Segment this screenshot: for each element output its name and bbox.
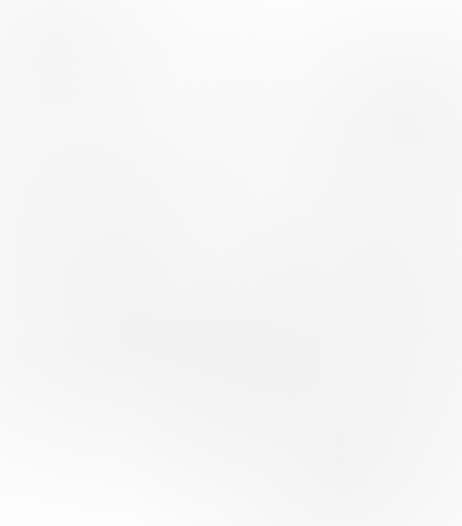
panel-label: B1 [60, 165, 76, 177]
y-tick-label: 0.0 [41, 386, 49, 392]
panel-auc-label: AUC=0.72 [275, 426, 337, 440]
y-tick-label: 1.0 [251, 287, 259, 293]
y-tick-label: 0.4 [35, 84, 44, 90]
legend-label: AUC = 0.65 [384, 378, 411, 384]
panel-auc-label: AUC=0.65 [271, 304, 337, 319]
y-tick-label: 0.2 [46, 483, 53, 489]
roc-plot-c2: 0.00.20.40.60.81.00.00.20.40.60.81.0C2AU… [232, 283, 428, 403]
x-tick-label: 0.6 [140, 393, 148, 399]
roc-panel-b2: 0.00.20.40.60.81.00.00.20.40.60.81.0B2AU… [232, 157, 428, 279]
y-tick-label: 0.2 [41, 366, 49, 372]
y-tick-label: 1.0 [46, 409, 53, 415]
y-tick-label: 0.0 [46, 501, 53, 507]
y-tick-label: 0.8 [46, 427, 53, 433]
panel-label: A2 [267, 24, 283, 38]
y-tick-label: 0.0 [35, 126, 44, 132]
x-tick-label: 0.2 [289, 393, 297, 399]
y-tick-label: 0.4 [46, 464, 53, 470]
panel-auc-label: AUC=0.76 [61, 304, 127, 319]
x-tick-label: 0.8 [381, 393, 389, 399]
panel-label: C1 [61, 291, 76, 303]
x-tick-label: 0.0 [48, 268, 56, 274]
y-tick-label: 0.4 [251, 346, 259, 352]
x-tick-label: 0.6 [352, 133, 361, 139]
x-tick-label: 0.2 [79, 268, 87, 274]
y-tick-label: 1.0 [249, 161, 257, 167]
y-tick-label: 0.6 [251, 326, 259, 332]
x-tick-label: 0.2 [77, 133, 86, 139]
y-tick-label: 0.8 [256, 427, 263, 433]
panel-label: A1 [57, 24, 73, 38]
y-tick-label: 0.2 [39, 241, 47, 247]
x-tick-label: 0.8 [168, 508, 175, 514]
x-tick-label: 0.0 [49, 393, 57, 399]
y-tick-label: 0.8 [251, 306, 259, 312]
y-tick-label: 0.0 [249, 261, 257, 267]
x-tick-label: 0.4 [320, 268, 329, 274]
panel-label: C2 [271, 291, 286, 303]
roc-panel-c1: 0.00.20.40.60.81.00.00.20.40.60.81.0C1AU… [22, 283, 218, 403]
y-tick-label: 0.4 [41, 346, 49, 352]
legend-label: AUC = 0.72 [177, 118, 206, 124]
x-tick-label: 1.0 [203, 268, 211, 274]
x-tick-label: 0.0 [264, 508, 271, 514]
x-tick-label: 1.0 [406, 508, 413, 514]
y-tick-label: 0.8 [39, 181, 47, 187]
y-tick-label: 0.6 [39, 201, 47, 207]
y-tick-label: 0.0 [245, 126, 254, 132]
legend-label: AUC = 0.72 [380, 496, 406, 501]
panel-label: D1 [65, 413, 79, 425]
roc-panel-d1: 0.00.20.40.60.81.00.00.20.40.60.81.0D1AU… [22, 406, 218, 518]
panel-auc-label: AUC=0.84 [267, 38, 337, 54]
y-tick-label: 0.6 [41, 326, 49, 332]
y-tick-label: 0.2 [35, 105, 44, 111]
x-tick-label: 0.0 [254, 133, 263, 139]
x-tick-label: 0.8 [171, 393, 179, 399]
x-tick-label: 0.8 [384, 133, 393, 139]
x-tick-label: 1.0 [207, 133, 216, 139]
x-tick-label: 0.4 [109, 133, 118, 139]
x-tick-label: 0.6 [139, 508, 146, 514]
y-tick-label: 0.6 [249, 201, 257, 207]
y-tick-label: 0.4 [245, 84, 254, 90]
x-tick-label: 0.8 [172, 268, 180, 274]
x-tick-label: 0.4 [319, 133, 328, 139]
y-tick-label: 0.8 [35, 41, 44, 47]
x-tick-label: 0.6 [351, 268, 359, 274]
panel-auc-label: AUC=0.72 [57, 38, 127, 54]
y-tick-label: 0.2 [256, 483, 263, 489]
roc-plot-a2: 0.00.20.40.60.81.00.00.20.40.60.81.0A2AU… [232, 16, 428, 144]
y-tick-label: 0.6 [256, 446, 263, 452]
y-tick-label: 0.0 [39, 261, 47, 267]
panel-auc-label: AUC=0.66 [270, 178, 337, 193]
x-tick-label: 0.4 [110, 393, 118, 399]
panel-auc-label: AUC=0.71 [65, 426, 127, 440]
x-tick-label: 0.6 [349, 508, 356, 514]
x-tick-label: 0.4 [320, 393, 328, 399]
x-tick-label: 0.0 [44, 133, 53, 139]
x-tick-label: 0.8 [382, 268, 390, 274]
y-tick-label: 0.0 [256, 501, 263, 507]
legend-label: ROC = 0.84 [387, 118, 417, 124]
roc-panel-a1: 0.00.20.40.60.81.00.00.20.40.60.81.0A1AU… [22, 16, 218, 144]
y-tick-label: 0.0 [251, 386, 259, 392]
panel-auc-label: AUC=0.67 [60, 178, 127, 193]
y-tick-label: 1.0 [39, 161, 47, 167]
y-tick-label: 0.8 [249, 181, 257, 187]
x-tick-label: 1.0 [417, 133, 426, 139]
roc-plot-d2: 0.00.20.40.60.81.00.00.20.40.60.81.0D2AU… [232, 406, 428, 518]
y-tick-label: 0.4 [249, 221, 258, 227]
x-tick-label: 0.0 [259, 393, 267, 399]
y-tick-label: 1.0 [35, 20, 44, 26]
y-tick-label: 1.0 [245, 20, 254, 26]
roc-plot-c1: 0.00.20.40.60.81.00.00.20.40.60.81.0C1AU… [22, 283, 218, 403]
x-tick-label: 0.6 [141, 268, 149, 274]
legend-label: AUC = 0.76 [174, 378, 201, 384]
roc-plot-b2: 0.00.20.40.60.81.00.00.20.40.60.81.0B2AU… [232, 157, 428, 279]
x-tick-label: 0.2 [289, 268, 297, 274]
x-tick-label: 0.0 [258, 268, 266, 274]
x-tick-label: 0.2 [292, 508, 299, 514]
x-tick-label: 0.6 [350, 393, 358, 399]
y-tick-label: 0.6 [245, 62, 254, 68]
y-tick-label: 0.2 [251, 366, 259, 372]
